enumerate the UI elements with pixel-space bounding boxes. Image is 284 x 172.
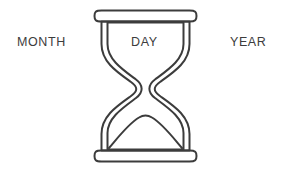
illustration-scene: MONTH DAY YEAR bbox=[0, 0, 284, 172]
label-month: MONTH bbox=[17, 36, 66, 49]
hourglass-icon bbox=[0, 0, 284, 172]
label-year: YEAR bbox=[230, 36, 266, 49]
hourglass-sand-mound bbox=[109, 116, 182, 148]
hourglass-bottom-cap bbox=[95, 151, 197, 162]
label-day: DAY bbox=[131, 36, 158, 49]
hourglass-top-cap bbox=[95, 11, 197, 22]
